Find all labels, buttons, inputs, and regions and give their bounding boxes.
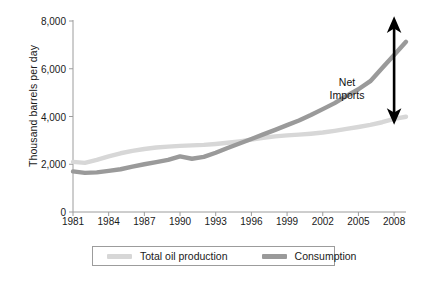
- legend-item-total-oil-production: Total oil production: [107, 250, 228, 262]
- plot-area: [0, 0, 424, 283]
- legend-swatch-total-oil-production: [107, 254, 132, 259]
- legend-item-consumption: Consumption: [262, 250, 357, 262]
- chart-legend: Total oil production Consumption: [92, 246, 335, 266]
- legend-label-total-oil-production: Total oil production: [140, 250, 228, 262]
- x-tick-label-1999: 1999: [267, 216, 307, 227]
- y-axis-ticks: [69, 21, 73, 212]
- x-tick-label-1981: 1981: [53, 216, 93, 227]
- legend-label-consumption: Consumption: [295, 250, 357, 262]
- x-tick-label-1984: 1984: [89, 216, 129, 227]
- net-imports-label: Net Imports: [318, 76, 376, 101]
- net-imports-label-line2: Imports: [318, 89, 376, 102]
- chart-figure: Thousand barrels per day 02,0004,0006,00…: [0, 0, 424, 283]
- x-tick-label-1990: 1990: [160, 216, 200, 227]
- x-tick-label-2005: 2005: [338, 216, 378, 227]
- x-tick-label-1987: 1987: [124, 216, 164, 227]
- figure-caption: [6, 276, 418, 283]
- x-tick-label-1993: 1993: [196, 216, 236, 227]
- x-tick-label-1996: 1996: [231, 216, 271, 227]
- x-tick-label-2002: 2002: [303, 216, 343, 227]
- series-line-total-oil-production: [73, 117, 406, 163]
- legend-swatch-consumption: [262, 254, 287, 259]
- x-tick-label-2008: 2008: [374, 216, 414, 227]
- net-imports-label-line1: Net: [318, 76, 376, 89]
